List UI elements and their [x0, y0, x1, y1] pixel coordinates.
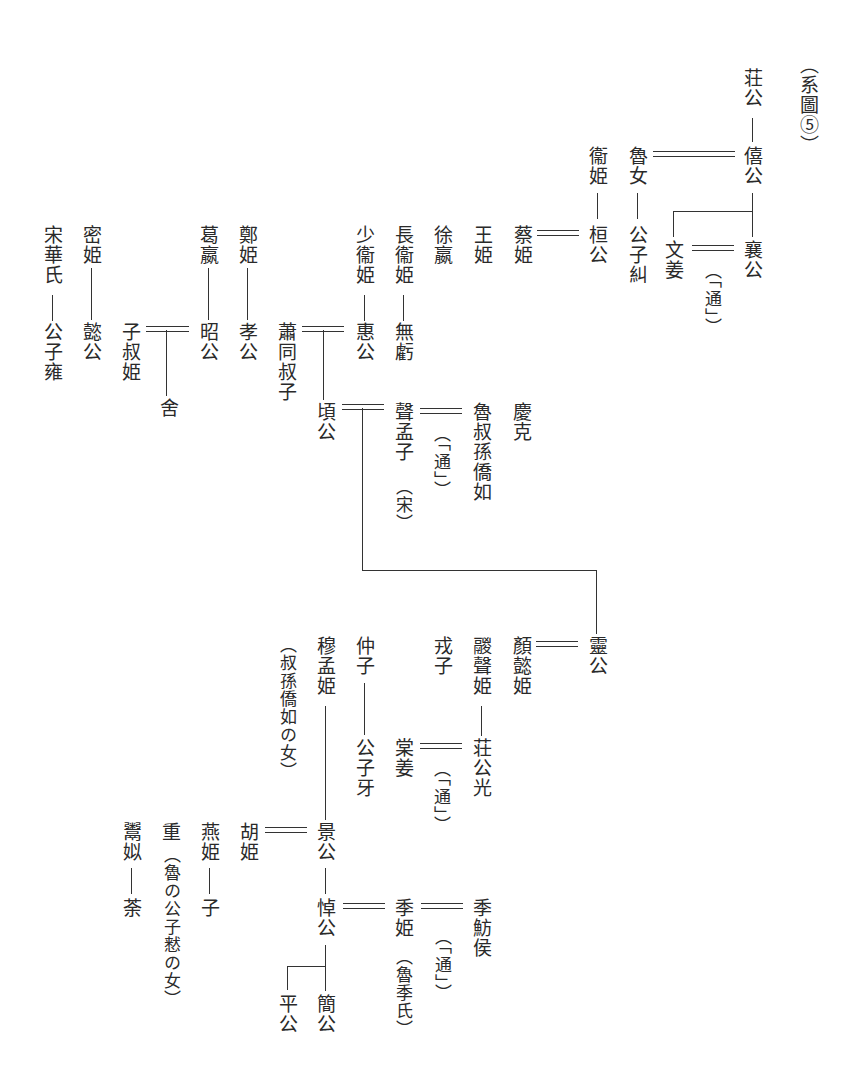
marriage-line	[265, 827, 307, 833]
liaison-line	[420, 743, 462, 749]
person-zhuang-gong-guang: 荘公光	[470, 738, 492, 798]
note-mu-meng-ji: （叔孫僑如の女）	[276, 636, 298, 780]
descent-line	[597, 193, 598, 219]
person-dao-gong: 悼公	[314, 898, 336, 938]
person-zheng-ji: 鄭姫	[236, 225, 258, 265]
person-yi-gong: 懿公	[80, 322, 102, 362]
person-xiang-gong: 襄公	[741, 240, 763, 280]
descent-line	[481, 706, 482, 736]
descent-line	[752, 193, 753, 237]
marriage-line	[146, 326, 189, 332]
person-lu-nu: 魯女	[626, 146, 648, 186]
person-zi: 子	[198, 898, 220, 918]
person-hui-gong: 惠公	[353, 322, 375, 362]
person-ping-gong: 平公	[276, 994, 298, 1034]
person-gongzi-ya: 公子牙	[353, 738, 375, 798]
sibling-line	[287, 966, 325, 967]
person-xi-gong: 僖公	[741, 146, 763, 186]
person-huan-gong: 桓公	[586, 225, 608, 265]
descent-line	[91, 268, 92, 320]
person-ji-fanghou: 季魴侯	[470, 898, 492, 958]
person-ge-ying: 葛嬴	[197, 225, 219, 265]
sibling-line	[673, 211, 753, 212]
person-zong-sheng-ji: 鬷聲姫	[470, 636, 492, 696]
person-she: 舍	[157, 398, 179, 418]
person-song-hua-shi: 宋華氏	[41, 225, 63, 285]
note-tong: （「通」）	[701, 262, 723, 336]
person-zhong: 重	[159, 822, 181, 842]
person-jian-gong: 簡公	[314, 994, 336, 1034]
descent-line	[325, 868, 326, 894]
descent-line	[208, 268, 209, 320]
person-yan-yi-ji: 顏懿姫	[510, 636, 532, 696]
descent-line	[325, 706, 326, 820]
person-qing-gong: 頃公	[314, 402, 336, 442]
liaison-line	[420, 408, 462, 414]
descent-line	[166, 330, 167, 396]
person-tu: 荼	[120, 898, 142, 918]
figure-label: （系圖⑤）	[797, 55, 819, 155]
person-yan-ji: 燕姫	[198, 822, 220, 862]
liaison-line	[692, 245, 734, 251]
person-ji-ji: 季姫	[392, 898, 414, 938]
descent-line	[209, 868, 210, 894]
descent-line	[362, 570, 596, 571]
person-tang-jiang: 棠姜	[392, 738, 414, 778]
person-shao-wei-ji: 少衞姫	[353, 225, 375, 285]
person-hu-ji: 胡姫	[237, 822, 259, 862]
descent-line	[362, 408, 363, 570]
descent-line	[131, 868, 132, 894]
note-zhong: （魯の公子慭の女）	[160, 846, 182, 1008]
person-wu-kui: 無虧	[392, 322, 414, 362]
person-ling-gong: 靈公	[586, 636, 608, 676]
marriage-line	[653, 151, 735, 157]
note-tong: （「通」）	[430, 425, 452, 499]
note-ji-ji: （魯季氏）	[392, 948, 414, 1038]
person-zhuang-gong: 荘公	[741, 68, 763, 108]
person-zhong-zi: 仲子	[353, 636, 375, 676]
person-xiao-gong: 孝公	[236, 322, 258, 362]
note-tong: （「通」）	[431, 928, 453, 1002]
page-header-cutoff	[0, 0, 847, 6]
marriage-line	[342, 404, 384, 410]
person-zishu-ji: 子叔姫	[119, 322, 141, 382]
descent-line	[752, 118, 753, 142]
descent-line	[403, 295, 404, 321]
descent-line	[247, 268, 248, 320]
person-yu-si: 鬻姒	[120, 822, 142, 862]
note-tong: （「通」）	[430, 760, 452, 834]
descent-line	[364, 295, 365, 321]
person-qing-ke: 慶克	[510, 402, 532, 442]
person-jing-gong: 景公	[314, 822, 336, 862]
person-gongzi-yong: 公子雍	[41, 322, 63, 382]
person-zhao-gong: 昭公	[197, 322, 219, 362]
person-xiao-tong-shuzi: 蕭同叔子	[275, 322, 297, 402]
liaison-line	[421, 903, 463, 909]
descent-line	[673, 211, 674, 237]
descent-line	[325, 945, 326, 991]
descent-line	[323, 330, 324, 400]
person-mu-meng-ji: 穆孟姫	[314, 636, 336, 696]
marriage-line	[536, 641, 578, 647]
note-song: （宋）	[392, 478, 414, 532]
descent-line	[287, 966, 288, 990]
descent-line	[596, 570, 597, 634]
marriage-line	[343, 903, 385, 909]
descent-line	[364, 683, 365, 735]
person-gongzi-jiu: 公子糾	[626, 225, 648, 285]
person-mi-ji: 密姫	[80, 225, 102, 265]
person-wen-jiang: 文姜	[662, 240, 684, 280]
person-lu-shusun-qiaoru: 魯叔孫僑如	[470, 402, 492, 502]
descent-line	[637, 193, 638, 219]
person-rong-zi: 戎子	[431, 636, 453, 676]
person-chang-wei-ji: 長衞姫	[392, 225, 414, 285]
person-xu-ying: 徐嬴	[431, 225, 453, 265]
person-wang-ji: 王姫	[471, 225, 493, 265]
descent-line	[52, 295, 53, 321]
person-wei-ji: 衞姫	[586, 146, 608, 186]
person-sheng-mengzi: 聲孟子	[392, 402, 414, 462]
marriage-line	[537, 230, 579, 236]
person-cai-ji: 蔡姫	[511, 225, 533, 265]
